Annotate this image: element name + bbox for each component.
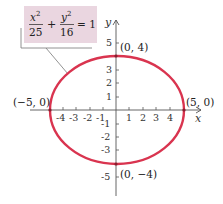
- equation-y-exponent: 2: [67, 10, 71, 18]
- y-tick-label: -1: [101, 118, 110, 129]
- point-top: [114, 54, 117, 57]
- y-tick-label: 5: [106, 37, 112, 48]
- x-tick-label: -4: [56, 112, 65, 123]
- equation-y-denominator: 16: [60, 26, 74, 38]
- y-tick-label: 1: [106, 91, 112, 102]
- x-tick-label: 4: [167, 112, 173, 123]
- point-right: [182, 108, 185, 111]
- y-tick-label: -3: [101, 144, 110, 155]
- y-tick-label: 3: [106, 64, 112, 75]
- equation-x-denominator: 25: [29, 26, 42, 38]
- point-label-right: (5, 0): [186, 96, 214, 108]
- ellipse-graph: x 2 25 + y 2 16 = 1 x y -4 -3 -2 -1 1 2 …: [0, 0, 223, 204]
- equation-x-exponent: 2: [36, 10, 40, 18]
- x-tick-labels: -4 -3 -2 -1 1 2 3 4: [56, 112, 173, 123]
- point-label-bottom: (0, −4): [120, 168, 157, 180]
- point-bottom: [114, 162, 117, 165]
- x-tick-label: 2: [140, 112, 146, 123]
- x-tick-label: -3: [69, 112, 78, 123]
- point-label-left: (−5, 0): [13, 96, 50, 108]
- equation-equals: = 1: [77, 18, 96, 30]
- x-tick-label: -2: [83, 112, 92, 123]
- x-tick-label: 3: [153, 112, 159, 123]
- point-label-top: (0, 4): [120, 41, 148, 53]
- equation-leader-line: [46, 48, 68, 74]
- x-tick-label: 1: [126, 112, 132, 123]
- y-tick-label: 2: [106, 77, 112, 88]
- point-left: [48, 108, 51, 111]
- y-tick-label: -2: [101, 131, 110, 142]
- y-tick-label: -5: [101, 171, 110, 182]
- y-axis-label: y: [104, 16, 112, 29]
- x-axis-label: x: [195, 112, 202, 125]
- equation-plus: +: [47, 18, 56, 31]
